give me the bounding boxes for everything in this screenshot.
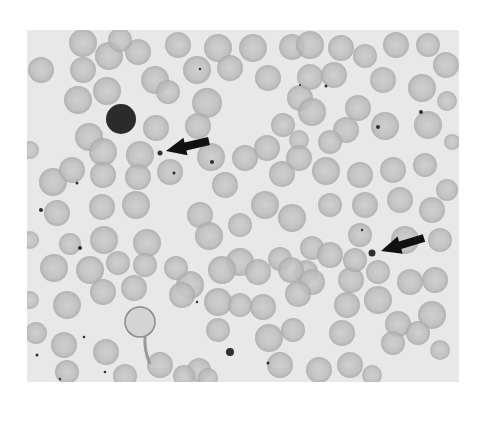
red-blood-cell <box>318 130 342 154</box>
red-blood-cell <box>70 57 96 83</box>
red-blood-cell <box>419 197 445 223</box>
red-blood-cell <box>53 291 81 319</box>
red-blood-cell <box>312 157 340 185</box>
red-blood-cell <box>436 179 458 201</box>
red-blood-cell <box>352 192 378 218</box>
red-blood-cell <box>157 159 183 185</box>
red-blood-cell <box>204 288 232 316</box>
red-blood-cell <box>380 157 406 183</box>
red-blood-cell <box>106 251 130 275</box>
inclusion-dot <box>76 182 79 185</box>
red-blood-cell <box>90 162 116 188</box>
inclusion-dot <box>299 84 301 86</box>
red-blood-cell <box>286 145 312 171</box>
red-blood-cell <box>406 321 430 345</box>
red-blood-cell <box>296 31 324 59</box>
inclusion-dot <box>196 301 198 303</box>
red-blood-cell <box>239 34 267 62</box>
blood-smear-micrograph <box>0 0 486 424</box>
red-blood-cell <box>437 91 457 111</box>
red-blood-cell <box>433 52 459 78</box>
red-blood-cell <box>444 134 460 150</box>
red-blood-cell <box>285 281 311 307</box>
red-blood-cell <box>318 193 342 217</box>
red-blood-cell <box>90 226 118 254</box>
red-blood-cell <box>133 253 157 277</box>
red-blood-cell <box>217 55 243 81</box>
red-blood-cell <box>156 80 180 104</box>
red-blood-cell <box>164 256 188 280</box>
red-blood-cell <box>348 223 372 247</box>
inclusion-dot <box>36 354 39 357</box>
red-blood-cell <box>298 98 326 126</box>
red-blood-cell <box>370 67 396 93</box>
red-blood-cell <box>343 248 367 272</box>
red-blood-cell <box>89 138 117 166</box>
inclusion-dot <box>158 151 163 156</box>
red-blood-cell <box>306 357 332 383</box>
red-blood-cell <box>143 115 169 141</box>
red-blood-cell <box>40 254 68 282</box>
inclusion-dot <box>173 172 176 175</box>
red-blood-cell <box>108 28 132 52</box>
red-blood-cell <box>147 352 173 378</box>
red-blood-cell <box>347 162 373 188</box>
inclusion-dot <box>376 125 380 129</box>
inclusion-dot <box>369 250 376 257</box>
red-blood-cell <box>245 259 271 285</box>
red-blood-cell <box>267 352 293 378</box>
red-blood-cell <box>93 77 121 105</box>
red-blood-cell <box>44 200 70 226</box>
red-blood-cell <box>414 111 442 139</box>
red-blood-cell <box>208 256 236 284</box>
red-blood-cell <box>422 267 448 293</box>
inclusion-dot <box>361 229 363 231</box>
red-blood-cell <box>254 135 280 161</box>
red-blood-cell <box>353 44 377 68</box>
red-blood-cell <box>271 113 295 137</box>
red-blood-cell <box>345 95 371 121</box>
inclusion-dot <box>210 160 214 164</box>
inclusion-dot <box>267 362 270 365</box>
red-blood-cell <box>55 360 79 384</box>
red-blood-cell <box>366 260 390 284</box>
red-blood-cell <box>228 293 252 317</box>
red-blood-cell <box>197 143 225 171</box>
red-blood-cell <box>329 320 355 346</box>
red-blood-cell <box>381 331 405 355</box>
inclusion-dot <box>83 336 86 339</box>
red-blood-cell <box>328 35 354 61</box>
inclusion-dot <box>104 371 107 374</box>
red-blood-cell <box>371 112 399 140</box>
red-blood-cell <box>185 113 211 139</box>
inclusion-dot <box>199 68 201 70</box>
red-blood-cell <box>121 275 147 301</box>
red-blood-cell <box>428 228 452 252</box>
inclusion-dot <box>78 246 82 250</box>
red-blood-cell <box>387 187 413 213</box>
red-blood-cell <box>195 222 223 250</box>
red-blood-cell <box>90 279 116 305</box>
red-blood-cell <box>416 33 440 57</box>
red-blood-cell <box>383 32 409 58</box>
red-blood-cell <box>397 269 423 295</box>
red-blood-cell <box>25 322 47 344</box>
inclusion-dot <box>59 378 61 380</box>
red-blood-cell <box>59 157 85 183</box>
red-blood-cell <box>255 324 283 352</box>
red-blood-cell <box>169 282 195 308</box>
red-blood-cell <box>317 242 343 268</box>
red-blood-cell <box>362 365 382 385</box>
red-blood-cell <box>408 74 436 102</box>
red-blood-cell <box>89 194 115 220</box>
red-blood-cell <box>251 191 279 219</box>
lymphocyte <box>106 104 136 134</box>
red-blood-cell <box>122 191 150 219</box>
red-blood-cell <box>430 340 450 360</box>
red-blood-cell <box>297 64 323 90</box>
red-blood-cell <box>337 352 363 378</box>
red-blood-cell <box>212 172 238 198</box>
red-blood-cell <box>228 213 252 237</box>
red-blood-cell <box>125 164 151 190</box>
inclusion-dot <box>39 208 43 212</box>
